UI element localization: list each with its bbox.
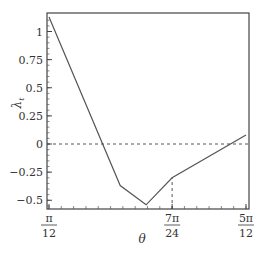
- x-tick-denominator: 24: [165, 227, 179, 240]
- x-tick-numerator: π: [45, 212, 52, 225]
- y-tick-label: 0.5: [26, 82, 44, 95]
- y-tick-label: 0.25: [19, 110, 44, 123]
- x-axis-label: θ: [138, 232, 146, 246]
- data-line: [49, 17, 246, 205]
- y-tick-label: −0.5: [16, 194, 43, 207]
- x-tick-numerator: 5π: [239, 212, 253, 225]
- y-tick-label: −0.25: [9, 166, 43, 179]
- plot-frame: [47, 13, 249, 209]
- y-tick-label: 1: [36, 26, 43, 39]
- y-tick-label: 0: [36, 138, 43, 151]
- y-axis-label: λt: [10, 97, 26, 110]
- x-tick-denominator: 12: [239, 227, 253, 240]
- line-chart: 10.750.50.250−0.25−0.5π127π245π12 λt θ: [0, 0, 259, 253]
- x-tick-denominator: 12: [42, 227, 56, 240]
- x-tick-numerator: 7π: [165, 212, 179, 225]
- y-tick-label: 0.75: [19, 54, 44, 67]
- plot-area: 10.750.50.250−0.25−0.5π127π245π12: [9, 13, 254, 240]
